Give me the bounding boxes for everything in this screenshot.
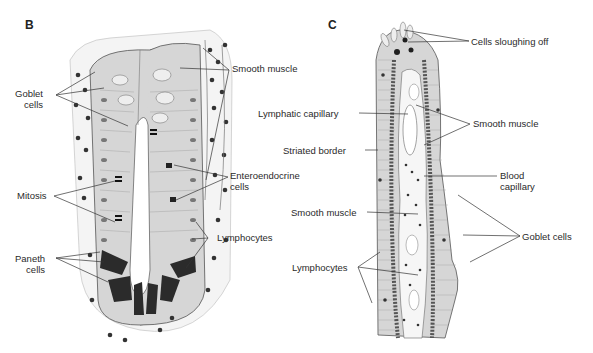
label-smooth-muscle-c-lower: Smooth muscle (291, 207, 356, 218)
label-blood-capillary: Blood capillary (500, 170, 535, 192)
label-cells-sloughing-off: Cells sloughing off (471, 36, 548, 47)
label-goblet-cells-c: Goblet cells (522, 231, 572, 242)
label-enteroendocrine-cells: Enteroendocrine cells (230, 170, 300, 192)
label-striated-border: Striated border (283, 145, 346, 156)
label-smooth-muscle-b: Smooth muscle (232, 63, 297, 74)
villus-drawing (358, 22, 520, 338)
label-lymphatic-capillary: Lymphatic capillary (258, 108, 338, 119)
label-mitosis: Mitosis (17, 190, 47, 201)
label-goblet-cells-b: Goblet cells (15, 88, 43, 110)
label-paneth-line1: Paneth (15, 253, 45, 264)
label-goblet-line1: Goblet (15, 88, 43, 99)
label-lymphocytes-c: Lymphocytes (292, 262, 348, 273)
label-smooth-muscle-c-upper: Smooth muscle (473, 118, 538, 129)
label-paneth-line2: cells (15, 264, 45, 275)
label-goblet-line2: cells (15, 99, 43, 110)
crypt-drawing (54, 30, 232, 342)
label-enteroendocrine-line1: Enteroendocrine (230, 170, 300, 181)
label-enteroendocrine-line2: cells (230, 181, 300, 192)
label-paneth-cells: Paneth cells (15, 253, 45, 275)
label-lymphocytes-b: Lymphocytes (217, 232, 273, 243)
label-blood-line2: capillary (500, 181, 535, 192)
label-blood-line1: Blood (500, 170, 535, 181)
